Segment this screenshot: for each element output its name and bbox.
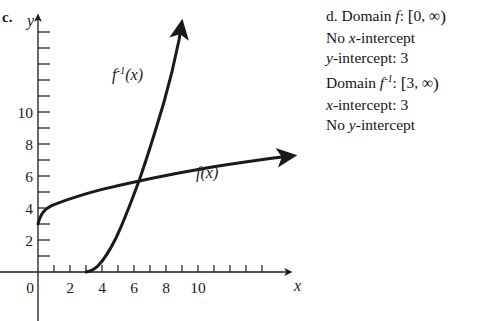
x-tick-labels: 2 4 6 8 10 xyxy=(66,279,206,296)
y-tick-label-6: 6 xyxy=(25,168,33,185)
answer-line-domain-f: d. Domain f: [0, ∞) xyxy=(326,6,502,28)
answer-block-d: d. Domain f: [0, ∞) No x-intercept y-int… xyxy=(326,6,502,136)
curve-label-finv-arg: (x) xyxy=(125,66,143,84)
answer-line-no-x-intercept: No x-intercept xyxy=(326,28,502,49)
x-tick-label-2: 2 xyxy=(66,279,74,296)
answer-line-domain-f-inverse: Domain f-1: [3, ∞) xyxy=(326,69,502,95)
curve-label-f-inverse: f-1(x) xyxy=(112,65,143,84)
origin-label: 0 xyxy=(26,279,34,296)
y-tick-label-4: 4 xyxy=(25,200,33,217)
curve-label-f: f(x) xyxy=(196,164,218,182)
answer-line-no-y-intercept: No y-intercept xyxy=(326,115,502,136)
curve-f xyxy=(38,157,286,224)
graph-svg: 10 8 6 4 2 2 4 6 8 10 0 y x f(x) xyxy=(0,0,315,321)
answer-line-y-intercept: y-intercept: 3 xyxy=(326,48,502,69)
x-tick-label-10: 10 xyxy=(190,279,206,296)
y-axis-label: y xyxy=(25,12,35,30)
x-axis-label: x xyxy=(293,277,301,294)
curve-label-finv-exponent: -1 xyxy=(116,65,125,76)
y-tick-labels: 10 8 6 4 2 xyxy=(18,104,34,249)
y-tick-label-10: 10 xyxy=(18,104,34,121)
svg-text:f-1(x): f-1(x) xyxy=(112,65,143,84)
x-tick-label-4: 4 xyxy=(98,279,106,296)
x-tick-label-8: 8 xyxy=(162,279,170,296)
figure-page: c. xyxy=(0,0,502,321)
y-tick-label-8: 8 xyxy=(25,136,33,153)
x-tick-label-6: 6 xyxy=(130,279,138,296)
y-tick-label-2: 2 xyxy=(25,232,33,249)
graph-figure: 10 8 6 4 2 2 4 6 8 10 0 y x f(x) xyxy=(0,0,315,321)
answer-line-x-intercept: x-intercept: 3 xyxy=(326,95,502,116)
